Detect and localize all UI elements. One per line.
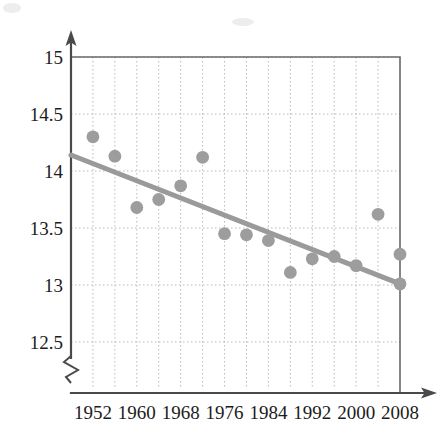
data-point — [108, 150, 121, 163]
x-tick-label: 1976 — [206, 402, 244, 423]
plot-frame — [71, 57, 400, 393]
y-tick-label: 13 — [44, 275, 63, 296]
data-point — [394, 248, 407, 261]
data-point — [306, 252, 319, 265]
scatter-chart: 1514.51413.51312.5 195219601968197619841… — [0, 0, 446, 440]
x-tick-label: 1992 — [293, 402, 331, 423]
data-point — [394, 277, 407, 290]
y-axis — [66, 30, 77, 358]
data-point — [152, 193, 165, 206]
x-tick-label: 1984 — [249, 402, 288, 423]
data-point — [262, 234, 275, 247]
horizontal-gridlines — [71, 57, 400, 342]
y-tick-label: 12.5 — [30, 332, 63, 353]
data-point — [196, 151, 209, 164]
y-tick-label: 13.5 — [30, 218, 63, 239]
data-point — [87, 130, 100, 143]
y-tick-labels: 1514.51413.51312.5 — [30, 47, 64, 353]
x-tick-label: 1960 — [118, 402, 156, 423]
y-axis-break-icon — [64, 356, 78, 383]
paper-texture — [3, 3, 254, 26]
data-point — [174, 179, 187, 192]
x-tick-label: 1968 — [162, 402, 200, 423]
data-point — [328, 250, 341, 263]
data-point — [240, 228, 253, 241]
x-tick-label: 2000 — [337, 402, 375, 423]
chart-container: 1514.51413.51312.5 195219601968197619841… — [0, 0, 446, 440]
data-point — [130, 201, 143, 214]
y-tick-label: 15 — [44, 47, 63, 68]
x-axis — [71, 388, 437, 399]
data-point — [284, 266, 297, 279]
x-tick-label: 1952 — [74, 402, 112, 423]
data-point — [218, 227, 231, 240]
data-point — [372, 208, 385, 221]
x-tick-labels: 19521960196819761984199220002008 — [74, 402, 419, 423]
y-tick-label: 14.5 — [30, 104, 63, 125]
data-point — [350, 259, 363, 272]
x-tick-label: 2008 — [381, 402, 419, 423]
y-tick-label: 14 — [44, 161, 64, 182]
